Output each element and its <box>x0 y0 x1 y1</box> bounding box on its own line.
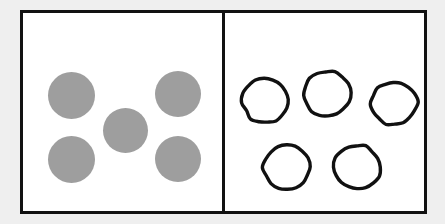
right-panel-outline-circles <box>225 13 424 211</box>
dot-bottom-right <box>155 136 201 182</box>
dot-center <box>103 108 148 153</box>
dot-top-right <box>155 71 201 117</box>
dot-top-left <box>48 72 95 119</box>
dot-bottom-left <box>48 136 95 183</box>
circle-bottom-2 <box>225 13 424 211</box>
left-panel-filled-circles <box>23 13 222 211</box>
figure-frame <box>20 10 427 214</box>
figure-canvas <box>0 0 445 224</box>
